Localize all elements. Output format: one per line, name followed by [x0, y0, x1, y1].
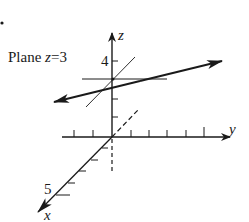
z-axis-label: z: [117, 27, 124, 43]
diagram-canvas: Plane z=3 z y x 4 5: [0, 0, 249, 222]
bullet-dot: [0, 21, 3, 24]
x-axis: [38, 110, 138, 212]
y-axis-label: y: [227, 121, 236, 137]
x-axis-label: x: [43, 207, 51, 222]
y-axis: [62, 127, 230, 137]
z-tick-label-4: 4: [101, 53, 109, 69]
z-axis: [112, 33, 118, 172]
plane-z3: [82, 57, 167, 107]
plane-label: Plane z=3: [8, 49, 67, 65]
x-tick-label-5: 5: [44, 181, 52, 197]
line-in-plane: [54, 61, 222, 102]
